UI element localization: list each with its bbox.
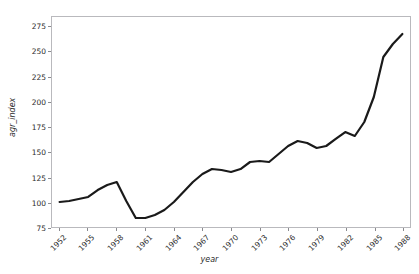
y-tick-label: 150: [12, 148, 46, 157]
agr-index-line: [60, 34, 403, 218]
y-tick-label: 225: [12, 72, 46, 81]
y-tick-mark: [48, 228, 51, 229]
y-tick-label: 275: [12, 22, 46, 31]
y-tick-label: 200: [12, 97, 46, 106]
x-tick-mark: [288, 228, 289, 231]
x-tick-mark: [403, 228, 404, 231]
x-tick-mark: [346, 228, 347, 231]
x-tick-mark: [145, 228, 146, 231]
x-axis-label: year: [0, 255, 419, 264]
x-tick-mark: [87, 228, 88, 231]
y-tick-label: 175: [12, 123, 46, 132]
line-series-svg: [52, 17, 410, 227]
y-tick-label: 250: [12, 47, 46, 56]
y-tick-label: 75: [12, 224, 46, 233]
y-tick-label: 125: [12, 173, 46, 182]
x-tick-mark: [231, 228, 232, 231]
x-tick-mark: [116, 228, 117, 231]
x-tick-mark: [260, 228, 261, 231]
x-tick-mark: [375, 228, 376, 231]
chart-figure: agr_index 75100125150175200225250275 195…: [0, 0, 419, 274]
y-tick-label: 100: [12, 198, 46, 207]
x-tick-mark: [202, 228, 203, 231]
x-tick-mark: [59, 228, 60, 231]
x-tick-mark: [174, 228, 175, 231]
plot-area: [51, 16, 411, 228]
x-tick-mark: [317, 228, 318, 231]
